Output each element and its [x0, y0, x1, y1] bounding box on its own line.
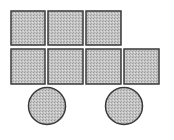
wheel-circle-1 — [29, 88, 66, 125]
square-block-3 — [86, 11, 121, 45]
square-block-4 — [11, 49, 45, 84]
square-block-1 — [11, 11, 45, 45]
square-block-2 — [48, 11, 83, 45]
vehicle-diagram — [0, 0, 174, 140]
square-block-7 — [124, 49, 159, 84]
square-block-6 — [86, 49, 121, 84]
square-block-5 — [48, 49, 83, 84]
wheel-circle-2 — [106, 88, 143, 125]
shapes-group — [11, 11, 159, 125]
